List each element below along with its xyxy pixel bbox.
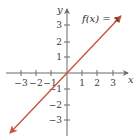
- function-graph: −3 −2 −1 1 2 3 3 2 1 −1 −2 −3 x y f(x) =…: [0, 0, 139, 140]
- function-annotation: f(x) = x: [81, 13, 120, 24]
- y-tick-label: 2: [56, 37, 62, 47]
- x-tick-label: −3: [14, 78, 28, 88]
- x-tick-label: −2: [29, 78, 42, 88]
- x-tick-label: 2: [94, 78, 100, 88]
- function-line: [67, 16, 121, 73]
- y-tick-label: −3: [49, 115, 63, 125]
- y-tick-label: −2: [49, 100, 62, 110]
- x-tick-label: 3: [110, 78, 116, 88]
- x-tick-label: 1: [79, 78, 85, 88]
- x-axis-label: x: [128, 74, 134, 85]
- y-tick-label: 3: [56, 20, 62, 30]
- y-axis-label: y: [56, 4, 63, 15]
- y-tick-label: 1: [56, 52, 62, 62]
